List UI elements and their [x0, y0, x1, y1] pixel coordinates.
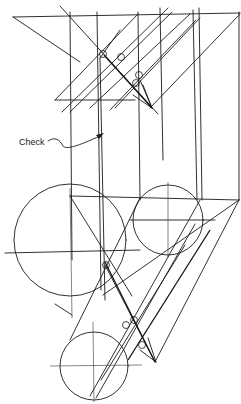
check-arrowhead: [96, 133, 104, 139]
vertical-projectors: [70, 8, 239, 300]
cylinder-diagonals: [70, 196, 239, 398]
check-leader: [48, 136, 100, 148]
geometry-drawing: Check: [0, 0, 241, 404]
bottom-circle: [50, 322, 142, 402]
check-label: Check: [19, 137, 45, 147]
lower-arrow: [105, 262, 156, 362]
check-annotation: Check: [19, 133, 104, 148]
